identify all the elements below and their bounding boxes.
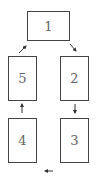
arrow-5-to-1: [19, 46, 26, 53]
arrows-layer: [0, 0, 97, 178]
arrow-1-to-2: [70, 44, 76, 51]
